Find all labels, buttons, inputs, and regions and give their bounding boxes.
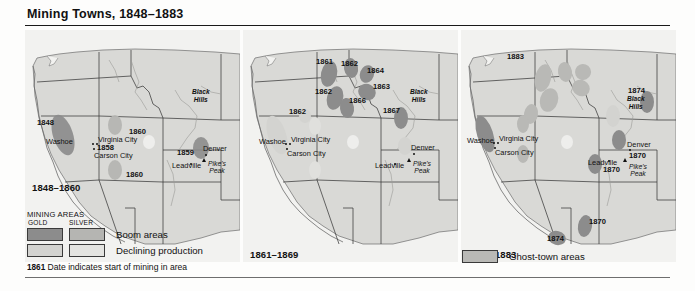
legend-note: 1861 Date indicates start of mining in a… [27,262,187,272]
date-label: 1866 [349,96,366,105]
declining-area-denver [398,137,412,155]
city-label: Virginia City [291,135,330,144]
mining-area-virginia-city [108,115,122,135]
city-label: Washoe [467,136,494,145]
legend-label-ghost-town: Ghost-town areas [509,251,585,262]
region-label-black-hills: Black Hills [192,88,210,103]
panel-1-caption: 1848–1860 [32,182,80,193]
peak-label-pikes-peak: Pike's Peak [208,160,226,175]
city-label: Denver [203,144,227,153]
legend-label-boom: Boom areas [116,229,168,240]
date-label: 1862 [289,107,306,116]
city-label: Washoe [46,137,73,146]
panel-2-caption: 1861–1869 [250,249,298,260]
mining-area-esmeralda [108,160,122,180]
date-label: 1874 [628,86,645,95]
peak-marker [407,158,411,162]
peak-label-pikes-peak: Pike's Peak [629,163,647,178]
date-label: 1860 [126,170,143,179]
date-label: 1862 [315,87,332,96]
city-label: Washoe [259,137,286,146]
date-label: 1883 [507,52,524,61]
ghost-area-virginia-city [517,115,529,133]
legend-swatch-silver-boom [69,228,105,241]
date-label: 1848 [37,118,54,127]
peak-marker [202,158,206,162]
legend-swatch-gold-declining [27,244,63,257]
city-label: Carson City [495,148,534,157]
legend-note-text: Date indicates start of mining in area [48,262,187,272]
date-label: 1859 [177,148,194,157]
city-label: Leadville [588,158,617,167]
figure-container: Mining Towns, 1848–1883 [0,0,695,291]
date-label: 1867 [383,106,400,115]
legend-column-gold: GOLD [28,219,48,226]
city-label: Virginia City [98,135,137,144]
date-label: 1870 [629,151,646,160]
legend-column-silver: SILVER [69,219,93,226]
legend-note-date: 1861 [27,263,45,272]
city-label: Denver [411,143,435,152]
city-label: Carson City [287,149,326,158]
legend-title: MINING AREAS [27,210,84,219]
legend-swatch-gold-boom [27,228,63,241]
declining-area-esmeralda [309,161,321,179]
declining-area-virginia-city [309,117,321,135]
mining-area-denver-1870 [612,130,626,150]
city-label: Carson City [94,151,133,160]
region-label-black-hills: Black Hills [627,95,645,110]
date-label: 1861 [316,57,333,66]
date-label: 1864 [367,66,384,75]
region-label-black-hills: Black Hills [410,88,428,103]
declining-area-1867 [606,105,620,127]
bottom-divider [25,277,670,278]
date-label: 1874 [547,234,564,243]
city-label: Leadville [375,161,404,170]
date-label: 1863 [373,82,390,91]
date-label: 1870 [589,217,606,226]
city-label: Leadville [172,161,201,170]
legend-swatch-silver-declining [69,244,105,257]
city-label: Virginia City [499,134,538,143]
peak-marker [623,158,627,162]
legend-label-declining: Declining production [116,245,203,256]
peak-label-pikes-peak: Pike's Peak [413,160,431,175]
date-label: 1862 [341,59,358,68]
legend-swatch-ghost-town [462,250,498,263]
title-divider [25,25,670,26]
city-label: Denver [627,140,651,149]
figure-title: Mining Towns, 1848–1883 [27,7,184,21]
